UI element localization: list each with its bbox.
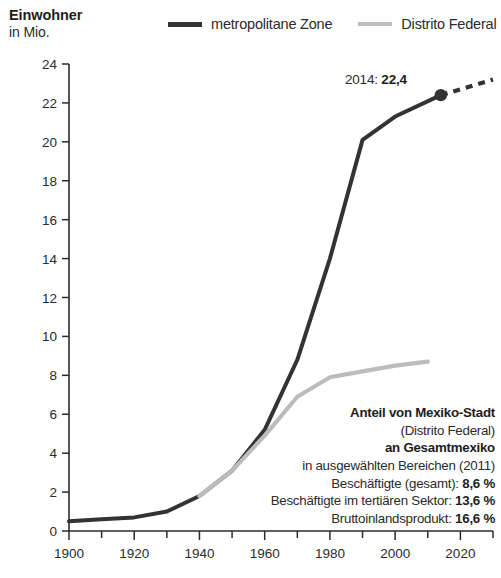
stats-annotation-box: Anteil von Mexiko-Stadt (Distrito Federa… (205, 404, 495, 528)
svg-text:8: 8 (49, 368, 57, 383)
stats-row-gdp: Bruttoinlandsprodukt: 16,6 % (205, 510, 495, 528)
stats-row-employed-total: Beschäftigte (gesamt): 8,6 % (205, 475, 495, 493)
stats-title-line3: an Gesamtmexiko (205, 439, 495, 457)
svg-text:2: 2 (49, 485, 57, 500)
svg-text:1900: 1900 (54, 546, 84, 561)
stats-title-line1: Anteil von Mexiko-Stadt (205, 404, 495, 422)
svg-text:1940: 1940 (184, 546, 214, 561)
stats-title-line4: in ausgewählten Bereichen (2011) (205, 457, 495, 475)
svg-text:1960: 1960 (250, 546, 280, 561)
stats-row-value: 13,6 % (455, 493, 495, 508)
svg-text:16: 16 (42, 213, 57, 228)
data-point-marker[interactable] (435, 89, 447, 101)
stats-row-label: Beschäftigte im tertiären Sektor: (271, 493, 455, 508)
svg-text:22: 22 (42, 96, 57, 111)
stats-title-line2: (Distrito Federal) (205, 422, 495, 440)
svg-text:12: 12 (42, 291, 57, 306)
y-axis-ticks: 024681012141618202224 (42, 57, 69, 539)
svg-text:2000: 2000 (380, 546, 410, 561)
stats-row-value: 8,6 % (462, 476, 495, 491)
svg-text:2020: 2020 (445, 546, 475, 561)
callout-value: 22,4 (381, 72, 406, 87)
svg-text:24: 24 (42, 57, 58, 72)
svg-text:20: 20 (42, 135, 57, 150)
svg-text:4: 4 (49, 446, 57, 461)
stats-row-employed-tertiary: Beschäftigte im tertiären Sektor: 13,6 % (205, 492, 495, 510)
svg-text:14: 14 (42, 252, 58, 267)
stats-row-label: Bruttoinlandsprodukt: (331, 511, 455, 526)
stats-row-label: Beschäftigte (gesamt): (331, 476, 462, 491)
svg-text:18: 18 (42, 174, 57, 189)
chart-root: Einwohner in Mio. metropolitane Zone Dis… (0, 0, 501, 578)
svg-text:1980: 1980 (315, 546, 345, 561)
stats-row-value: 16,6 % (455, 511, 495, 526)
svg-text:1920: 1920 (119, 546, 149, 561)
data-point-callout: 2014: 22,4 (345, 72, 407, 87)
series-line (441, 80, 493, 96)
svg-text:0: 0 (49, 524, 57, 539)
svg-text:6: 6 (49, 407, 57, 422)
svg-text:10: 10 (42, 329, 57, 344)
callout-prefix: 2014: (345, 72, 381, 87)
x-axis-ticks: 1900192019401960198020002020 (54, 531, 493, 561)
